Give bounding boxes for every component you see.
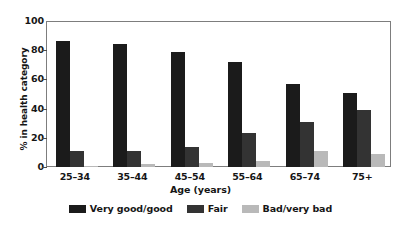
bar-chart-figure: % in health category 020406080100 25–343… (0, 0, 401, 227)
y-axis-tick-label: 80 (0, 44, 44, 56)
x-axis-tick-label: 75+ (334, 171, 392, 182)
y-axis-tick-label: 20 (0, 132, 44, 144)
x-axis-tick-label: 55–64 (219, 171, 277, 182)
legend-label: Bad/very bad (263, 203, 333, 214)
chart-legend: Very good/goodFairBad/very bad (0, 203, 401, 214)
bar-group (286, 21, 328, 167)
bar (199, 163, 213, 167)
x-axis-tick-label: 65–74 (276, 171, 334, 182)
legend-swatch (242, 205, 259, 213)
x-axis-tick-label: 35–44 (104, 171, 162, 182)
legend-label: Very good/good (90, 203, 173, 214)
bar (242, 133, 256, 167)
legend-item: Bad/very bad (242, 203, 333, 214)
bar (228, 62, 242, 167)
legend-swatch (187, 205, 204, 213)
bar-group (171, 21, 213, 167)
bar-group (343, 21, 385, 167)
x-axis-tick-label: 25–34 (46, 171, 104, 182)
bar (286, 84, 300, 167)
bar (343, 93, 357, 167)
bars-layer (46, 21, 391, 167)
y-axis-tick-label: 0 (0, 161, 44, 173)
legend-item: Very good/good (69, 203, 173, 214)
bar-group (56, 21, 98, 167)
bar (171, 52, 185, 167)
bar (141, 164, 155, 167)
y-axis-tick-label: 40 (0, 103, 44, 115)
y-axis-tick-label: 100 (0, 15, 44, 27)
bar (70, 151, 84, 167)
x-axis-title: Age (years) (0, 184, 401, 195)
bar (185, 147, 199, 167)
x-axis-tick-label: 45–54 (161, 171, 219, 182)
bar (256, 161, 270, 167)
bar (56, 41, 70, 167)
bar (127, 151, 141, 167)
legend-swatch (69, 205, 86, 213)
bar (113, 44, 127, 167)
y-axis-tick-mark (42, 167, 47, 168)
bar (300, 122, 314, 167)
bar-group (228, 21, 270, 167)
bar-group (113, 21, 155, 167)
bar (84, 166, 98, 167)
y-axis-tick-label: 60 (0, 73, 44, 85)
bar (314, 151, 328, 167)
legend-label: Fair (208, 203, 228, 214)
bar (357, 110, 371, 167)
legend-item: Fair (187, 203, 228, 214)
bar (371, 154, 385, 167)
